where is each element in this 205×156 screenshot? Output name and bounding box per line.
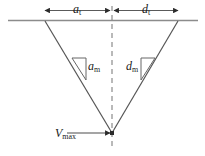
- deceleration-slope-line: [112, 21, 178, 133]
- label-accel-time: at: [73, 3, 81, 15]
- label-decel-time: dt: [142, 3, 150, 15]
- label-accel-rate: am: [88, 60, 100, 72]
- decel-slope-angle-marker: [141, 58, 155, 80]
- velocity-profile-diagram: at dt am dm Vmax: [0, 0, 205, 156]
- label-velocity-max: Vmax: [55, 127, 76, 139]
- acceleration-slope-line: [45, 21, 112, 133]
- diagram-canvas: [0, 0, 205, 156]
- apex-point-marker: [110, 131, 114, 135]
- label-decel-rate: dm: [126, 60, 138, 72]
